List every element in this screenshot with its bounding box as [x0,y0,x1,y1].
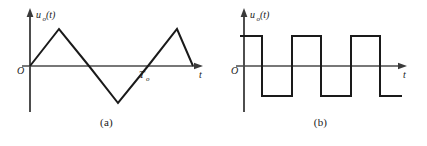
origin-label-a: O [17,65,24,76]
y-axis-label-main-b: u [250,9,255,20]
x-axis-label-b: t [403,69,406,80]
waveform-figure: u o (t) O T o t (a) [0,0,427,146]
origin-label-b: O [231,65,238,76]
plot-a-svg: u o (t) O T o t [0,0,213,118]
period-label-a: T o [139,69,150,83]
y-axis-b [241,8,248,112]
y-axis-label-a: u o (t) [36,9,56,23]
caption-a: (a) [0,116,213,128]
y-axis-label-arg-b: (t) [260,9,270,21]
caption-b: (b) [214,116,427,128]
x-axis-label-a: t [199,69,202,80]
period-label-sub-a: o [146,75,150,83]
y-axis-label-b: u o (t) [250,9,270,23]
plot-b-svg: u o (t) O t [214,0,427,118]
y-axis-a [27,8,34,112]
y-axis-label-arg-a: (t) [46,9,56,21]
panel-a: u o (t) O T o t (a) [0,0,213,146]
y-axis-label-main-a: u [36,9,41,20]
panel-b: u o (t) O t (b) [214,0,427,146]
x-axis-a [22,63,203,69]
